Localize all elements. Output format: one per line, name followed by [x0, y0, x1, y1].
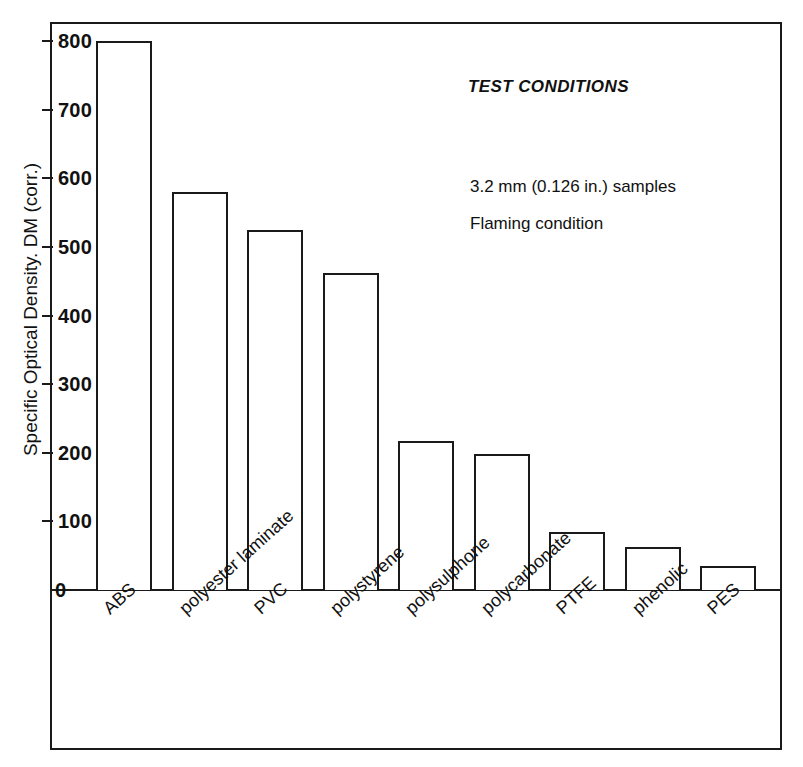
y-tick-label-400: 400	[58, 306, 92, 326]
x-tick-0-1	[150, 570, 152, 590]
x-tick-8-0	[700, 570, 702, 590]
y-tick-label-200: 200	[58, 443, 92, 463]
bar-polystyrene	[323, 273, 379, 590]
y-tick-label-300: 300	[58, 374, 92, 394]
x-tick-2-1	[301, 570, 303, 590]
y-tick-200	[42, 452, 53, 454]
y-tick-label-600: 600	[58, 168, 92, 188]
x-tick-6-1	[603, 570, 605, 590]
x-tick-4-0	[398, 570, 400, 590]
y-axis-title: Specific Optical Density. DM (corr.)	[21, 30, 40, 590]
y-axis-line	[50, 22, 52, 590]
x-tick-3-0	[323, 570, 325, 590]
x-tick-8-1	[754, 570, 756, 590]
figure-border	[50, 22, 782, 750]
y-tick-600	[42, 177, 53, 179]
annotation-line-2: Flaming condition	[470, 215, 603, 232]
y-tick-400	[42, 315, 53, 317]
figure-bar-chart: Specific Optical Density. DM (corr.) 010…	[0, 0, 803, 767]
x-tick-2-0	[247, 570, 249, 590]
annotation-line-1: 3.2 mm (0.126 in.) samples	[470, 178, 676, 195]
y-tick-800	[42, 40, 53, 42]
y-tick-100	[42, 520, 53, 522]
y-tick-700	[42, 109, 53, 111]
y-tick-label-500: 500	[58, 237, 92, 257]
bar-abs	[96, 41, 152, 590]
y-tick-label-0: 0	[55, 580, 66, 600]
y-tick-300	[42, 383, 53, 385]
bar-polyester-laminate	[172, 192, 228, 590]
y-tick-label-800: 800	[58, 31, 92, 51]
y-tick-500	[42, 246, 53, 248]
x-tick-6-0	[549, 570, 551, 590]
x-tick-5-0	[474, 570, 476, 590]
x-tick-7-0	[625, 570, 627, 590]
x-tick-1-0	[172, 570, 174, 590]
x-tick-0-0	[96, 570, 98, 590]
annotation-heading: TEST CONDITIONS	[468, 78, 629, 95]
y-tick-label-100: 100	[58, 511, 92, 531]
y-tick-label-700: 700	[58, 100, 92, 120]
